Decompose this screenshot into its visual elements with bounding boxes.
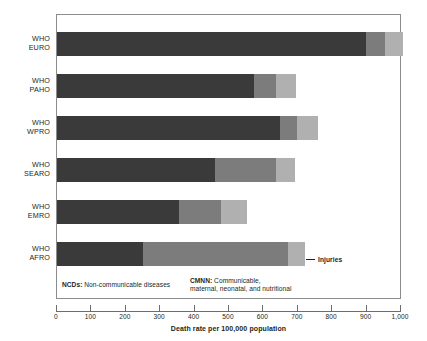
- x-axis-tick-label: 500: [222, 313, 233, 320]
- bar-segment-ncds: [57, 116, 280, 140]
- legend-abbr-cmnn: CMNN:: [190, 277, 212, 284]
- bar-segment-cmnn: [215, 158, 276, 182]
- x-axis-tick: [297, 305, 298, 311]
- stacked-bar-chart-figure: WHO EURO WHO PAHO WHO WPRO WHO SEARO WHO…: [0, 0, 427, 341]
- bar-segment-ncds: [57, 74, 254, 98]
- category-label-line2: EURO: [0, 44, 50, 53]
- category-label-who-wpro: WHO WPRO: [0, 119, 50, 136]
- injuries-annotation-label: Injuries: [318, 256, 342, 263]
- x-axis-tick-label: 1,000: [391, 313, 408, 320]
- x-axis-tick-label: 200: [119, 313, 130, 320]
- injuries-annotation: Injuries: [306, 256, 342, 263]
- x-axis-tick: [90, 305, 91, 311]
- bar-segment-cmnn: [143, 242, 288, 266]
- x-axis-line: [56, 311, 401, 312]
- category-label-line2: PAHO: [0, 86, 50, 95]
- x-axis-tick-label: 100: [85, 313, 96, 320]
- bar-segment-ncds: [57, 200, 179, 224]
- category-label-line2: SEARO: [0, 170, 50, 179]
- legend-text-cmnn: Communicable,: [212, 277, 260, 284]
- x-axis-title: Death rate per 100,000 population: [56, 325, 401, 332]
- bar-segment-injuries: [288, 242, 305, 266]
- bar-segment-ncds: [57, 158, 215, 182]
- category-label-who-emro: WHO EMRO: [0, 203, 50, 220]
- bar-segment-ncds: [57, 32, 366, 56]
- x-axis-tick: [331, 305, 332, 311]
- x-axis-tick: [194, 305, 195, 311]
- legend-entry-ncds: NCDs: Non-communicable diseases: [62, 281, 170, 289]
- bar-segment-cmnn: [280, 116, 297, 140]
- x-axis-tick-label: 600: [257, 313, 268, 320]
- x-axis-tick-label: 0: [54, 313, 58, 320]
- category-label-line2: AFRO: [0, 254, 50, 263]
- bar-segment-cmnn: [366, 32, 385, 56]
- x-axis-tick-label: 800: [326, 313, 337, 320]
- category-label-who-euro: WHO EURO: [0, 35, 50, 52]
- category-label-who-paho: WHO PAHO: [0, 77, 50, 94]
- bar-segment-ncds: [57, 242, 143, 266]
- leader-line-icon: [306, 259, 315, 260]
- x-axis-tick-label: 700: [291, 313, 302, 320]
- x-axis-tick: [400, 305, 401, 311]
- x-axis-tick: [228, 305, 229, 311]
- x-axis-tick: [366, 305, 367, 311]
- bar-segment-injuries: [297, 116, 318, 140]
- x-axis-tick: [262, 305, 263, 311]
- category-label-line2: EMRO: [0, 212, 50, 221]
- legend-abbr-ncds: NCDs:: [62, 281, 82, 288]
- bar-segment-injuries: [385, 32, 403, 56]
- x-axis-tick-label: 900: [360, 313, 371, 320]
- legend-entry-cmnn: CMNN: Communicable, maternal, neonatal, …: [190, 277, 291, 293]
- category-label-who-searo: WHO SEARO: [0, 161, 50, 178]
- x-axis-tick-label: 300: [154, 313, 165, 320]
- category-label-line2: WPRO: [0, 128, 50, 137]
- bar-segment-injuries: [276, 158, 295, 182]
- category-label-who-afro: WHO AFRO: [0, 245, 50, 262]
- x-axis-tick: [56, 305, 57, 311]
- legend-text-ncds: Non-communicable diseases: [82, 281, 170, 288]
- bar-segment-injuries: [276, 74, 296, 98]
- x-axis-tick: [159, 305, 160, 311]
- x-axis-tick-label: 400: [188, 313, 199, 320]
- legend-text-cmnn-line2: maternal, neonatal, and nutritional: [190, 285, 291, 293]
- bar-segment-injuries: [221, 200, 247, 224]
- bar-segment-cmnn: [254, 74, 276, 98]
- x-axis-tick: [125, 305, 126, 311]
- bar-segment-cmnn: [179, 200, 221, 224]
